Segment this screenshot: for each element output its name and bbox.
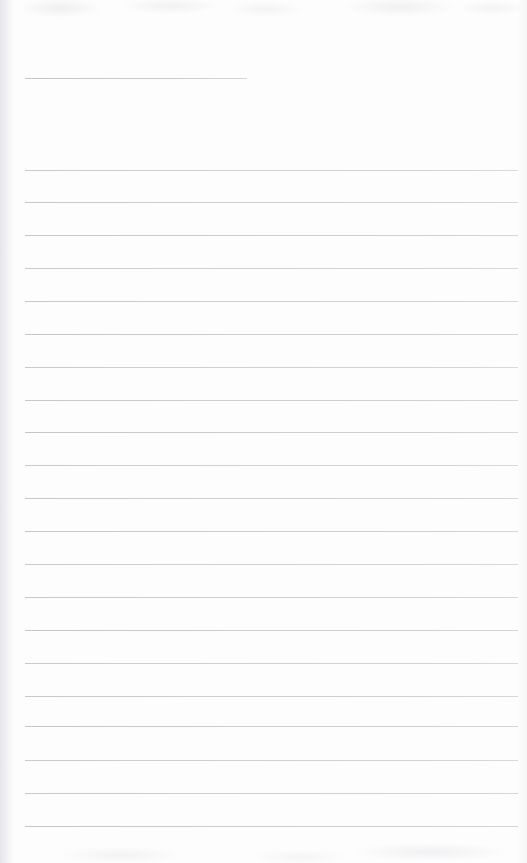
rule-line: [25, 334, 518, 335]
rule-line: [25, 367, 518, 368]
rule-line: [25, 202, 518, 203]
rule-line: [25, 760, 518, 761]
rule-line: [25, 630, 518, 631]
rule-line: [25, 432, 518, 433]
rule-line: [25, 696, 518, 697]
document-page: [0, 0, 527, 863]
rule-line: [25, 531, 518, 532]
rule-line: [25, 793, 518, 794]
rule-line: [25, 498, 518, 499]
rule-line: [25, 564, 518, 565]
rule-line: [25, 400, 518, 401]
rule-line: [25, 597, 518, 598]
rule-line: [25, 301, 518, 302]
rule-line: [25, 826, 518, 827]
rule-line: [25, 663, 518, 664]
rule-line: [25, 465, 518, 466]
rule-line: [25, 726, 518, 727]
rule-line: [25, 170, 518, 171]
rule-line-title: [25, 78, 247, 79]
rule-line: [25, 235, 518, 236]
rule-line: [25, 268, 518, 269]
